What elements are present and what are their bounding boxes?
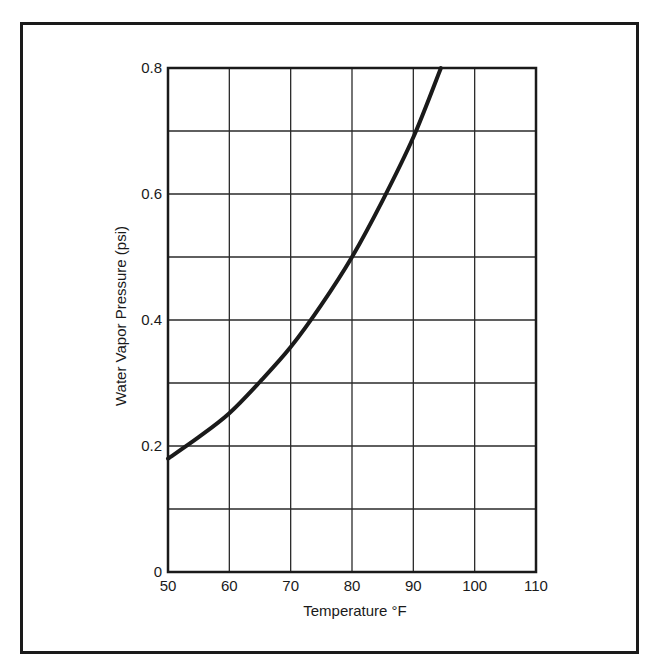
y-tick-label: 0.6 [141,185,162,202]
x-axis-title: Temperature °F [303,602,407,619]
y-tick-label: 0.2 [141,437,162,454]
y-axis-tick-labels: 00.20.40.60.8 [141,59,162,580]
x-tick-label: 100 [462,577,487,594]
x-tick-label: 80 [344,577,361,594]
x-tick-label: 110 [524,577,548,594]
water-vapor-pressure-chart: 5060708090100110 00.20.40.60.8 Temperatu… [0,0,650,670]
x-tick-label: 90 [405,577,422,594]
y-tick-label: 0.4 [141,311,162,328]
x-tick-label: 60 [221,577,238,594]
y-axis-title: Water Vapor Pressure (psi) [112,226,129,406]
x-tick-label: 70 [282,577,299,594]
gridlines [168,68,536,572]
y-tick-label: 0.8 [141,59,162,76]
x-tick-label: 50 [160,577,177,594]
data-series-line [168,68,441,459]
x-axis-tick-labels: 5060708090100110 [160,577,548,594]
y-tick-label: 0 [154,563,162,580]
